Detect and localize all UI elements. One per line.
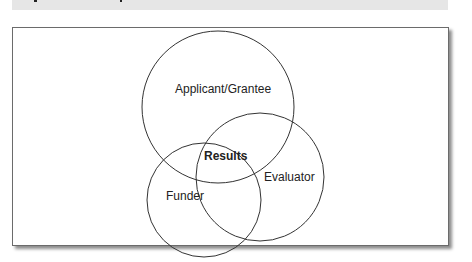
- applicant-grantee-label: Applicant/Grantee: [175, 82, 271, 96]
- evaluator-label: Evaluator: [264, 170, 315, 184]
- funder-label: Funder: [166, 189, 204, 203]
- results-label: Results: [204, 149, 247, 163]
- venn-diagram: [0, 0, 472, 262]
